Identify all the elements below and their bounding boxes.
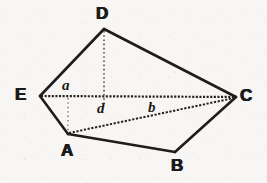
- figure-canvas: [0, 0, 267, 183]
- segment-label-d: d: [97, 101, 105, 116]
- vertex-label-d: D: [96, 5, 108, 22]
- vertex-label-c: C: [240, 87, 252, 104]
- diagonal-e-c: [41, 96, 235, 97]
- segment-label-b: b: [148, 100, 156, 115]
- edge-a-b: [68, 134, 175, 152]
- vertex-label-e: E: [15, 86, 26, 103]
- edge-d-e: [40, 29, 104, 96]
- geometry-figure: D E C A B a d b: [0, 0, 267, 183]
- edge-e-a: [40, 96, 68, 134]
- edge-b-c: [175, 97, 236, 152]
- vertex-label-a: A: [61, 142, 73, 159]
- vertex-label-b: B: [171, 157, 183, 174]
- segment-label-a: a: [62, 78, 70, 93]
- edge-d-c: [104, 29, 236, 97]
